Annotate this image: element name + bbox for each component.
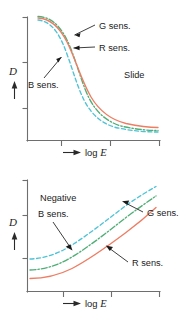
slide-label-r-sens: R sens. [99, 43, 130, 53]
negative-leader-b [53, 222, 73, 251]
negative-y-axis-arrow-icon [12, 232, 18, 250]
negative-x-axis-arrow-icon [63, 301, 81, 307]
slide-x-axis-arrow-icon [63, 150, 81, 156]
panel-slide: G sens. R sens. B sens. Slide D [8, 17, 160, 159]
negative-leader-r [106, 246, 128, 263]
negative-panel-label: Negative [40, 193, 76, 203]
slide-y-axis-label: D [8, 65, 17, 77]
slide-leader-g [75, 25, 96, 37]
slide-leader-b [44, 57, 62, 78]
panel-negative: Negative B sens. G sens. R sens. D [8, 180, 179, 309]
slide-leader-r [74, 46, 96, 51]
slide-label-b-sens: B sens. [28, 80, 59, 90]
negative-x-axis-label: log E [85, 298, 107, 309]
slide-panel-label: Slide [124, 70, 144, 80]
negative-y-axis-label: D [8, 216, 17, 228]
slide-y-axis-arrow-icon [12, 81, 18, 99]
negative-label-g-sens: G sens. [147, 208, 179, 218]
slide-label-g-sens: G sens. [99, 21, 131, 31]
slide-x-axis-label: log E [85, 147, 107, 158]
negative-label-b-sens: B sens. [38, 209, 69, 219]
film-characteristic-curves-figure: G sens. R sens. B sens. Slide D [0, 0, 187, 321]
negative-leader-g [122, 201, 143, 212]
negative-label-r-sens: R sens. [132, 258, 163, 268]
